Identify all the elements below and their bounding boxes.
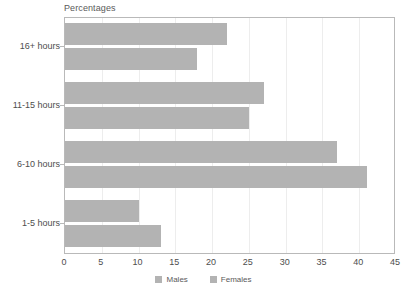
x-axis-tick-label-8: 40	[353, 257, 363, 267]
y-axis-tick	[60, 46, 64, 47]
bar-females-0	[65, 48, 197, 70]
y-axis-label-3: 1-5 hours	[22, 218, 60, 228]
y-axis-tick	[60, 105, 64, 106]
x-axis-tick-label-6: 30	[280, 257, 290, 267]
x-axis-tick-label-7: 35	[316, 257, 326, 267]
bar-males-1	[65, 82, 264, 104]
bar-males-3	[65, 200, 139, 222]
legend-item-females[interactable]: Females	[210, 275, 252, 284]
x-axis-tick-label-4: 20	[206, 257, 216, 267]
y-axis-label-0: 16+ hours	[20, 41, 60, 51]
y-axis-tick	[60, 164, 64, 165]
bar-chart: Percentages 16+ hours11-15 hours6-10 hou…	[0, 0, 407, 294]
gridline	[359, 18, 360, 253]
x-axis-tick-label-9: 45	[390, 257, 400, 267]
gridline	[286, 18, 287, 253]
y-axis-tick	[60, 223, 64, 224]
x-axis-tick-label-3: 15	[169, 257, 179, 267]
bar-females-3	[65, 225, 161, 247]
legend-label: Males	[166, 275, 187, 284]
x-axis-tick-label-1: 5	[98, 257, 103, 267]
legend-swatch-icon	[210, 276, 217, 283]
x-axis-tick-label-5: 25	[243, 257, 253, 267]
y-axis-label-2: 6-10 hours	[17, 159, 60, 169]
gridline	[212, 18, 213, 253]
gridline	[322, 18, 323, 253]
bar-males-0	[65, 23, 227, 45]
bar-females-1	[65, 107, 249, 129]
legend-swatch-icon	[155, 276, 162, 283]
chart-legend: MalesFemales	[0, 275, 407, 284]
chart-title: Percentages	[64, 3, 116, 13]
gridline	[249, 18, 250, 253]
bar-males-2	[65, 141, 337, 163]
plot-area	[64, 17, 395, 254]
legend-item-males[interactable]: Males	[155, 275, 187, 284]
y-axis-label-1: 11-15 hours	[13, 100, 60, 110]
legend-label: Females	[221, 275, 252, 284]
bar-females-2	[65, 166, 367, 188]
plot-inner	[65, 18, 394, 253]
x-axis-tick-label-0: 0	[61, 257, 66, 267]
x-axis-tick-label-2: 10	[133, 257, 143, 267]
